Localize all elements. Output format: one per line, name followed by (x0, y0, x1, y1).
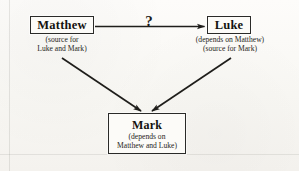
caption-luke-line-2: (source for Mark) (178, 45, 282, 54)
arrow-luke-to-mark (152, 58, 231, 111)
node-mark-content: Mark (depends on Matthew and Luke) (109, 118, 185, 150)
node-mark[interactable]: Mark (depends on Matthew and Luke) (108, 113, 186, 154)
node-matthew[interactable]: Matthew (30, 16, 94, 34)
node-matthew-label: Matthew (31, 17, 93, 33)
question-mark-annotation: ? (140, 13, 158, 29)
diagram-canvas: ? Matthew (source for Luke and Mark) Luk… (0, 0, 299, 171)
caption-matthew-line-2: Luke and Mark) (18, 45, 106, 54)
scan-edge-left (9, 0, 10, 171)
caption-mark-line-2: Matthew and Luke) (109, 142, 185, 151)
caption-matthew: (source for Luke and Mark) (18, 36, 106, 53)
arrow-matthew-to-mark (62, 58, 141, 111)
scan-edge-bottom (0, 154, 299, 155)
node-luke[interactable]: Luke (207, 16, 251, 34)
caption-luke: (depends on Matthew) (source for Mark) (178, 36, 282, 53)
caption-mark: (depends on Matthew and Luke) (109, 133, 185, 150)
node-luke-label: Luke (208, 17, 250, 33)
node-mark-label: Mark (109, 118, 185, 132)
